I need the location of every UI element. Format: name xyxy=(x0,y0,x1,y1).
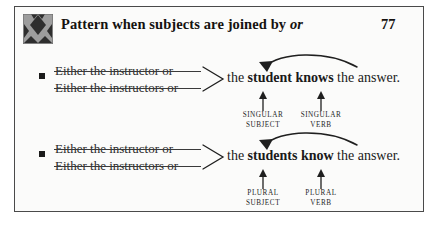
figure-frame: Pattern when subjects are joined by or 7… xyxy=(14,6,424,212)
struck-subject-line: Either the instructors or xyxy=(55,157,203,174)
struck-subject-line: Either the instructor or xyxy=(55,140,203,157)
example-block-plural: Either the instructor or Either the inst… xyxy=(15,133,425,211)
struck-subject-line: Either the instructor or xyxy=(55,62,203,79)
caption-line-2: VERB xyxy=(286,199,356,209)
strikethrough-rule xyxy=(54,166,201,167)
page-title-emphasis: or xyxy=(290,16,303,32)
verb-pointer-arrow-icon xyxy=(315,169,327,189)
struck-subject-options: Either the instructor or Either the inst… xyxy=(55,62,203,96)
angle-brace-icon xyxy=(201,64,227,94)
square-bullet-icon xyxy=(39,151,45,157)
agreement-curve-arrow-icon xyxy=(253,51,369,77)
caption-line-1: SINGULAR xyxy=(286,111,356,121)
angle-brace-icon xyxy=(201,142,227,172)
figure-header: Pattern when subjects are joined by or 7… xyxy=(15,11,425,45)
page-title-text: Pattern when subjects are joined by xyxy=(61,16,290,32)
square-bullet-icon xyxy=(39,73,45,79)
verb-pointer-arrow-icon xyxy=(315,91,327,111)
strikethrough-rule xyxy=(54,88,201,89)
agreement-curve-arrow-icon xyxy=(253,129,369,155)
textbook-figure: Pattern when subjects are joined by or 7… xyxy=(0,0,436,229)
page-title: Pattern when subjects are joined by or xyxy=(61,16,303,33)
subject-pointer-arrow-icon xyxy=(257,169,269,189)
example-block-singular: Either the instructor or Either the inst… xyxy=(15,55,425,133)
sentence-lead: the xyxy=(227,70,248,85)
struck-subject-options: Either the instructor or Either the inst… xyxy=(55,140,203,174)
caption-line-1: PLURAL xyxy=(286,189,356,199)
struck-subject-line: Either the instructors or xyxy=(55,79,203,96)
argyle-diamond-icon xyxy=(23,14,53,43)
sentence-lead: the xyxy=(227,148,248,163)
page-number: 77 xyxy=(381,16,396,33)
subject-pointer-arrow-icon xyxy=(257,91,269,111)
strikethrough-rule xyxy=(54,71,201,72)
verb-caption: SINGULAR VERB xyxy=(286,111,356,130)
strikethrough-rule xyxy=(54,149,201,150)
verb-caption: PLURAL VERB xyxy=(286,189,356,208)
